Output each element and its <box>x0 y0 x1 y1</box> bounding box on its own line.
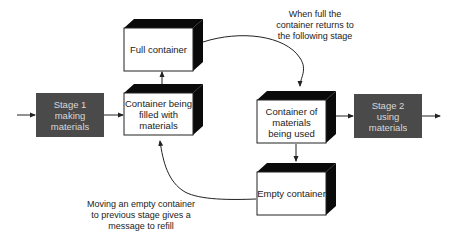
inuse-container-label-line1: Container of <box>266 106 318 117</box>
stage2-label-line2: using <box>377 111 400 122</box>
filling-container-label-line1: Container being <box>125 98 192 109</box>
empty-refill-line3: message to refill <box>108 221 174 231</box>
empty-to-filling-curve-arrow <box>160 141 256 199</box>
full-container-label: Full container <box>130 44 187 55</box>
full-return-line2: container returns to <box>276 20 354 30</box>
stage1-label-line1: Stage 1 <box>54 99 87 110</box>
empty-refill-line1: Moving an empty container <box>87 199 195 209</box>
filling-container-box: Container being filled with materials <box>124 84 203 135</box>
stage2-box: Stage 2 using materials <box>354 94 422 138</box>
full-return-annotation: When full the container returns to the f… <box>276 9 354 41</box>
empty-container-label: Empty container <box>257 188 326 199</box>
inuse-container-label-line2: materials <box>272 117 311 128</box>
inuse-container-label-line3: being used <box>268 128 314 139</box>
empty-refill-annotation: Moving an empty container to previous st… <box>87 199 195 231</box>
kanban-flow-diagram: Stage 1 making materials Stage 2 using m… <box>0 0 456 244</box>
empty-container-box: Empty container <box>257 163 336 215</box>
full-return-line1: When full the <box>289 9 342 19</box>
full-return-line3: the following stage <box>278 31 353 41</box>
filling-container-label-line2: filled with <box>139 109 178 120</box>
inuse-container-box: Container of materials being used <box>257 91 336 143</box>
stage1-label-line2: making <box>55 110 86 121</box>
full-to-inuse-curve-arrow <box>203 36 304 86</box>
empty-refill-line2: to previous stage gives a <box>91 210 191 220</box>
full-container-box: Full container <box>124 19 203 71</box>
filling-container-label-line3: materials <box>139 120 178 131</box>
stage1-box: Stage 1 making materials <box>36 93 104 137</box>
stage2-label-line1: Stage 2 <box>372 100 405 111</box>
stage1-label-line3: materials <box>51 121 90 132</box>
stage2-label-line3: materials <box>369 122 408 133</box>
